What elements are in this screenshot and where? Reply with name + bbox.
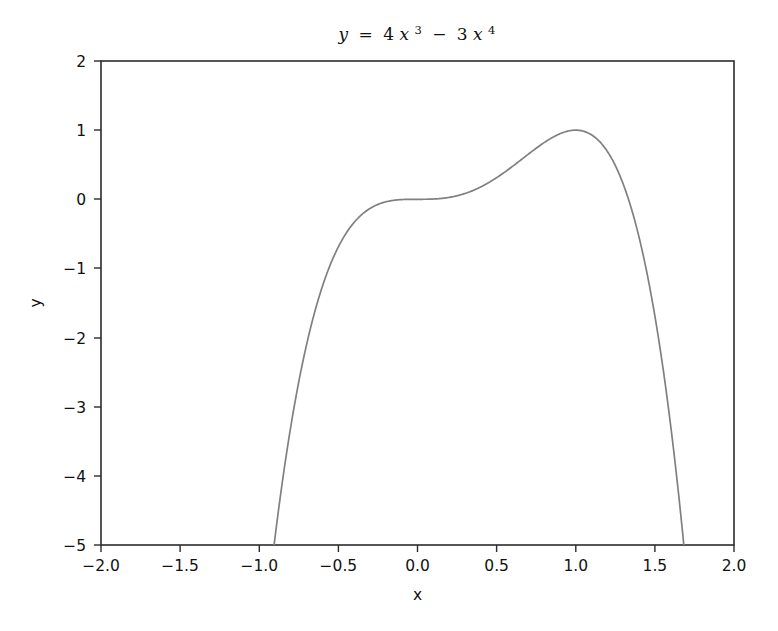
y-axis-label: y <box>27 298 45 307</box>
x-tick-label: −2.0 <box>82 557 120 575</box>
title-equals: = <box>359 24 373 44</box>
y-tick-label: 0 <box>76 191 86 209</box>
title-minus: − <box>432 24 446 44</box>
title-lhs: y <box>338 24 349 44</box>
x-tick-label: −0.5 <box>320 557 358 575</box>
y-tick-label: −1 <box>63 260 86 278</box>
x-tick-label: −1.0 <box>240 557 278 575</box>
y-tick-label: −2 <box>63 330 86 348</box>
y-tick-label: −3 <box>63 399 86 417</box>
y-tick-label: 1 <box>76 122 86 140</box>
title-term2-coef: 3 <box>457 24 468 44</box>
title-term1-var: x <box>399 24 409 44</box>
title-term2-exp: 4 <box>488 23 495 37</box>
x-tick-label: 2.0 <box>722 557 747 575</box>
title-term2-var: x <box>473 24 483 44</box>
title-term1-exp: 3 <box>414 23 421 37</box>
x-tick-label: 0.5 <box>484 557 509 575</box>
x-tick-label: 1.0 <box>563 557 588 575</box>
y-tick-label: 2 <box>76 53 86 71</box>
y-tick-label: −4 <box>63 468 86 486</box>
y-tick-label: −5 <box>63 537 86 555</box>
title-term1-coef: 4 <box>383 24 394 44</box>
x-axis-label: x <box>413 586 422 604</box>
x-tick-label: 1.5 <box>643 557 668 575</box>
matplotlib-figure: y = 4 x 3 − 3 x 4 <box>0 0 778 631</box>
x-tick-label: −1.5 <box>161 557 199 575</box>
figure-background <box>0 0 778 631</box>
plot-canvas: y = 4 x 3 − 3 x 4 <box>0 0 778 631</box>
x-tick-labels: −2.0 −1.5 −1.0 −0.5 0.0 0.5 1.0 1.5 2.0 <box>82 557 746 575</box>
x-tick-label: 0.0 <box>405 557 430 575</box>
